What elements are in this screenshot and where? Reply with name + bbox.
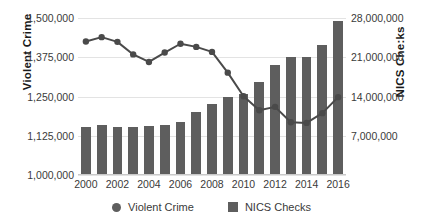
y-axis-right-tick-label: 28,000,000 [351, 12, 404, 24]
x-axis-tick-label: 2000 [74, 178, 97, 190]
y-axis-left-tick-label: 1,250,000 [27, 91, 74, 103]
x-axis-tick-label: 2014 [295, 178, 318, 190]
x-axis-tick-label: 2006 [169, 178, 192, 190]
x-axis-baseline [78, 174, 346, 175]
plot-area [78, 18, 346, 175]
line-data-point [209, 49, 215, 55]
chart-legend: Violent Crime NICS Checks [0, 197, 423, 217]
x-axis-tick-label: 2002 [106, 178, 129, 190]
line-series-violent-crime [78, 18, 346, 175]
line-data-point [130, 51, 136, 57]
y-axis-left-tick-label: 1,125,000 [27, 130, 74, 142]
line-data-point [335, 94, 341, 100]
gridline [78, 175, 346, 176]
x-axis-tick-label: 2004 [137, 178, 160, 190]
x-axis-ticks: 200020022004200620082010201220142016 [78, 178, 346, 194]
line-data-point [288, 119, 294, 125]
y-axis-left-ticks: 1,000,0001,125,0001,250,0001,375,0001,50… [0, 0, 74, 217]
line-data-point [146, 59, 152, 65]
circle-marker-icon [112, 203, 121, 212]
line-data-point [319, 110, 325, 116]
square-marker-icon [228, 202, 238, 212]
line-data-point [114, 39, 120, 45]
line-data-point [162, 49, 168, 55]
y-axis-right-tick-label: 14,000,000 [351, 91, 404, 103]
x-axis-tick-label: 2016 [326, 178, 349, 190]
line-data-point [177, 41, 183, 47]
line-data-point [98, 34, 104, 40]
x-axis-tick-label: 2012 [263, 178, 286, 190]
y-axis-left-tick-label: 1,375,000 [27, 51, 74, 63]
line-data-point [303, 120, 309, 126]
line-data-point [240, 93, 246, 99]
y-axis-right-tick-label: 21,000,000 [351, 51, 404, 63]
x-axis-tick-label: 2010 [232, 178, 255, 190]
legend-label-nics-checks: NICS Checks [245, 201, 311, 213]
line-data-point [83, 38, 89, 44]
line-data-point [256, 107, 262, 113]
line-data-point [272, 104, 278, 110]
line-data-point [193, 44, 199, 50]
legend-item-violent-crime[interactable]: Violent Crime [112, 201, 194, 213]
y-axis-left-tick-label: 1,500,000 [27, 12, 74, 24]
y-axis-left-tick-label: 1,000,000 [27, 169, 74, 181]
combo-chart: Violent Crime NICS Che:ks 1,000,0001,125… [0, 0, 423, 217]
x-axis-tick-label: 2008 [200, 178, 223, 190]
legend-label-violent-crime: Violent Crime [128, 201, 194, 213]
legend-item-nics-checks[interactable]: NICS Checks [228, 201, 311, 213]
line-data-point [225, 69, 231, 75]
y-axis-right-ticks: 7,000,00014,000,00021,000,00028,000,000 [351, 0, 423, 217]
y-axis-right-tick-label: 7,000,000 [351, 130, 398, 142]
